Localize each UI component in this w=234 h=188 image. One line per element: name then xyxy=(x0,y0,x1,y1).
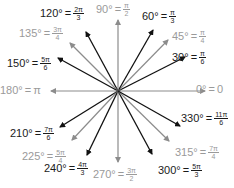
equals-sign: = xyxy=(65,8,71,19)
radian-fraction: π3 xyxy=(169,9,176,24)
radian-denominator: 6 xyxy=(218,119,224,126)
radian-numerator: π xyxy=(199,50,206,58)
radian-fraction: 7π4 xyxy=(208,145,219,160)
angle-label-150-deg: 150°=5π6 xyxy=(7,56,51,71)
equals-sign: = xyxy=(183,165,189,176)
equals-sign: = xyxy=(209,84,215,95)
radian-numerator: 7π xyxy=(43,126,54,134)
angle-label-330-deg: 330°=11π6 xyxy=(181,111,228,126)
equals-sign: = xyxy=(191,31,197,42)
degree-value: 270° xyxy=(93,169,116,180)
degree-value: 90° xyxy=(96,4,113,15)
equals-sign: = xyxy=(69,163,75,174)
equals-sign: = xyxy=(115,4,121,15)
angle-label-90-deg: 90°=π2 xyxy=(96,2,130,17)
radian-value: 0 xyxy=(217,84,223,95)
equals-sign: = xyxy=(44,28,50,39)
radian-fraction: 11π6 xyxy=(214,111,228,126)
degree-value: 210° xyxy=(10,128,33,139)
angle-label-135-deg: 135°=3π4 xyxy=(19,26,63,41)
radian-numerator: 2π xyxy=(73,6,84,14)
radian-denominator: 4 xyxy=(211,153,217,160)
degree-value: 0° xyxy=(196,84,207,95)
radian-fraction: 5π3 xyxy=(191,163,202,178)
degree-value: 315° xyxy=(175,147,198,158)
radian-fraction: π6 xyxy=(199,50,206,65)
degree-value: 240° xyxy=(44,163,67,174)
radian-denominator: 6 xyxy=(46,134,52,141)
radian-fraction: 4π3 xyxy=(77,161,88,176)
radian-denominator: 3 xyxy=(80,169,86,176)
radian-denominator: 3 xyxy=(194,171,200,178)
equals-sign: = xyxy=(35,128,41,139)
degree-value: 45° xyxy=(172,31,189,42)
radian-numerator: 4π xyxy=(77,161,88,169)
radian-fraction: 7π6 xyxy=(43,126,54,141)
equals-sign: = xyxy=(191,52,197,63)
angle-label-240-deg: 240°=4π3 xyxy=(44,161,88,176)
radian-denominator: 3 xyxy=(170,17,176,24)
radian-fraction: π4 xyxy=(199,29,206,44)
equals-sign: = xyxy=(200,147,206,158)
angle-label-300-deg: 300°=5π3 xyxy=(158,163,202,178)
radian-numerator: 11π xyxy=(214,111,228,119)
radian-denominator: 6 xyxy=(43,64,49,71)
angle-label-30-deg: 30°=π6 xyxy=(172,50,206,65)
degree-value: 120° xyxy=(40,8,63,19)
radian-fraction: 5π6 xyxy=(40,56,51,71)
radian-fraction: 3π2 xyxy=(126,167,137,182)
radian-numerator: 5π xyxy=(40,56,51,64)
radian-denominator: 4 xyxy=(200,37,206,44)
degree-value: 180° xyxy=(0,85,23,96)
degree-value: 30° xyxy=(172,52,189,63)
radian-denominator: 2 xyxy=(124,10,130,17)
degree-value: 135° xyxy=(19,28,42,39)
angle-label-45-deg: 45°=π4 xyxy=(172,29,206,44)
radian-numerator: 3π xyxy=(52,26,63,34)
angle-label-0-deg: 0°=0 xyxy=(196,84,223,95)
arrow-135-deg xyxy=(70,43,118,91)
radian-value: π xyxy=(33,85,41,96)
degree-value: 300° xyxy=(158,165,181,176)
degree-value: 225° xyxy=(22,151,45,162)
degree-value: 330° xyxy=(181,113,204,124)
radian-denominator: 2 xyxy=(129,175,135,182)
radian-denominator: 6 xyxy=(200,58,206,65)
equals-sign: = xyxy=(32,58,38,69)
angle-label-120-deg: 120°=2π3 xyxy=(40,6,84,21)
radian-numerator: 3π xyxy=(126,167,137,175)
radian-denominator: 4 xyxy=(55,34,61,41)
equals-sign: = xyxy=(25,85,31,96)
equals-sign: = xyxy=(118,169,124,180)
radian-fraction: 3π4 xyxy=(52,26,63,41)
radian-fraction: 2π3 xyxy=(73,6,84,21)
angle-label-270-deg: 270°=3π2 xyxy=(93,167,137,182)
radian-numerator: 7π xyxy=(208,145,219,153)
radian-numerator: 5π xyxy=(55,149,66,157)
radian-denominator: 3 xyxy=(76,14,82,21)
angle-label-180-deg: 180°=π xyxy=(0,85,41,96)
radian-numerator: π xyxy=(123,2,130,10)
angle-label-315-deg: 315°=7π4 xyxy=(175,145,219,160)
angle-label-210-deg: 210°=7π6 xyxy=(10,126,54,141)
radian-numerator: π xyxy=(169,9,176,17)
radian-fraction: π2 xyxy=(123,2,130,17)
equals-sign: = xyxy=(206,113,212,124)
degree-value: 60° xyxy=(142,11,159,22)
degree-value: 150° xyxy=(7,58,30,69)
angle-label-60-deg: 60°=π3 xyxy=(142,9,176,24)
equals-sign: = xyxy=(161,11,167,22)
radian-numerator: 5π xyxy=(191,163,202,171)
radian-numerator: π xyxy=(199,29,206,37)
